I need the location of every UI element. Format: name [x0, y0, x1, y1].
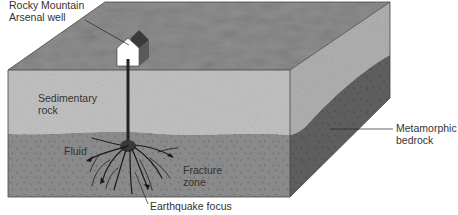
- metamorphic-label: Metamorphic bedrock: [396, 122, 457, 146]
- fracture-label: Fracture zone: [183, 164, 222, 188]
- earthquake-focus-label: Earthquake focus: [150, 200, 232, 212]
- well-pipe: [127, 64, 130, 144]
- sedimentary-label: Sedimentary rock: [38, 92, 97, 116]
- well-label: Rocky Mountain Arsenal well: [9, 0, 84, 23]
- fluid-label: Fluid: [64, 145, 87, 157]
